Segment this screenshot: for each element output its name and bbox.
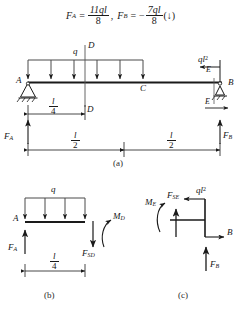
caption-a: (a) (113, 158, 123, 168)
label-shear-fsd: FSD (82, 249, 95, 259)
diagram-b-graphics (0, 175, 130, 280)
label-load-q: q (73, 47, 78, 56)
shear-fsd-subscript: SD (88, 252, 95, 258)
dim-half-right-numerator: l (167, 131, 176, 140)
label-reaction-fb-c: FB (210, 260, 219, 270)
label-reaction-fb: FB (223, 131, 232, 141)
dimension-label-half-right: l 2 (167, 131, 176, 150)
moment-me-symbol: M (145, 197, 153, 207)
label-couple-ql2: ql2 (198, 55, 208, 64)
label-load-q-b: q (51, 185, 56, 194)
label-point-b-c: B (227, 228, 233, 237)
shear-fse-subscript: SE (173, 194, 180, 200)
dim-quarter-b-numerator: l (50, 252, 59, 261)
segment-eb (170, 199, 205, 237)
dim-half-right-denominator: 2 (167, 140, 176, 150)
label-point-b: B (228, 78, 234, 87)
dim-quarter-denominator: 4 (49, 106, 58, 116)
dim-half-left-denominator: 2 (71, 140, 80, 150)
label-point-e-top: E (206, 66, 211, 74)
internal-moment-md (102, 220, 111, 247)
applied-ql2-c-exponent: 2 (203, 186, 206, 192)
internal-moment-me (157, 203, 165, 232)
applied-ql2-c-base: ql (196, 185, 203, 195)
dim-quarter-numerator: l (49, 97, 58, 106)
dimension-half-spans (28, 142, 220, 157)
couple-ql2-exponent: 2 (205, 55, 208, 61)
caption-c: (c) (178, 290, 188, 300)
reaction-fa-b-subscript: A (14, 246, 18, 252)
reaction-fa-subscript: A (10, 135, 14, 141)
label-applied-ql2-c: ql2 (196, 186, 206, 195)
label-point-d-top: D (88, 41, 95, 50)
dimension-label-quarter-b: l 4 (50, 252, 59, 271)
distributed-load-q (28, 60, 143, 79)
diagram-a-graphics (0, 0, 240, 175)
label-shear-fse: FSE (167, 191, 179, 201)
label-reaction-fa-b: FA (8, 243, 17, 253)
dim-quarter-b-denominator: 4 (50, 261, 59, 271)
label-point-e-bottom: E (205, 98, 210, 106)
label-point-c: C (140, 84, 146, 93)
figure-canvas: FA = 11ql 8 , FB = − 7ql 8 (↓) (0, 0, 240, 321)
moment-me-subscript: E (153, 201, 157, 207)
moment-md-subscript: D (121, 215, 125, 221)
reaction-fb-c-subscript: B (216, 263, 220, 269)
dim-half-left-numerator: l (71, 131, 80, 140)
label-moment-me: ME (145, 198, 156, 208)
label-point-a-b: A (13, 214, 19, 223)
couple-ql2-base: ql (198, 54, 205, 64)
dimension-label-quarter: l 4 (49, 97, 58, 116)
label-moment-md: MD (113, 212, 125, 222)
moment-md-symbol: M (113, 211, 121, 221)
dimension-label-half-left: l 2 (71, 131, 80, 150)
label-reaction-fa: FA (4, 132, 13, 142)
diagram-c-graphics (140, 175, 240, 280)
reaction-fb-subscript: B (229, 134, 233, 140)
caption-b: (b) (44, 290, 55, 300)
distributed-load-q-b (25, 198, 85, 219)
label-point-d-bottom: D (87, 105, 94, 114)
label-point-a: A (16, 76, 22, 85)
